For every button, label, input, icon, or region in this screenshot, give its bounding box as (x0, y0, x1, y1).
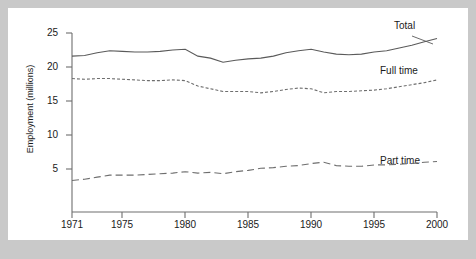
series-group (72, 38, 437, 180)
employment-line-chart: Employment (millions) 25 20 15 10 5 1971… (8, 8, 468, 240)
axes-group (66, 33, 437, 218)
chart-figure: Employment (millions) 25 20 15 10 5 1971… (8, 8, 468, 240)
chart-canvas (8, 8, 468, 240)
series-line-full-time (72, 79, 437, 93)
series-line-total (72, 38, 437, 62)
series-line-part-time (72, 162, 437, 181)
